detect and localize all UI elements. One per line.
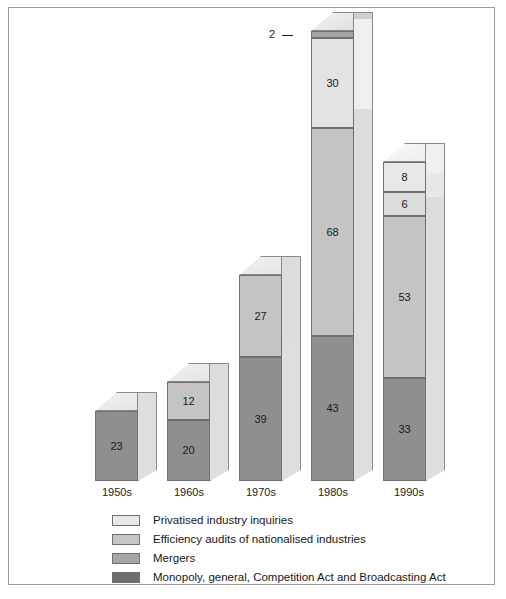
bar-front-face-1990s-efficiency: 53 [383, 216, 426, 378]
callout-leader-line [282, 35, 293, 36]
legend-swatch-mergers-icon [112, 553, 140, 564]
bar-value-label: 53 [398, 292, 410, 303]
bar-segment-1980s-monopoly: 43 [311, 336, 354, 481]
bar-side-face-1960s-monopoly [210, 401, 229, 481]
legend-label-mergers: Mergers [153, 552, 195, 564]
legend-item-efficiency: Efficiency audits of nationalised indust… [112, 530, 492, 548]
legend-swatch-monopoly-icon [112, 572, 140, 583]
bar-segment-1970s-efficiency: 27 [239, 275, 282, 357]
bar-front-face-1950s-monopoly: 23 [95, 411, 138, 481]
legend-item-mergers: Mergers [112, 549, 492, 567]
bar-top-face-1980s [311, 12, 354, 31]
bar-group-1990s: 8 6 53 33 [383, 0, 463, 490]
bar-group-1980s: 30 68 43 2 [311, 0, 391, 490]
bar-value-label: 33 [398, 424, 410, 435]
bar-front-face-1990s-monopoly: 33 [383, 378, 426, 481]
bar-segment-1950s-monopoly: 23 [95, 411, 138, 481]
bar-front-face-1990s-privatised-top: 8 [383, 162, 426, 192]
bar-segment-1990s-monopoly: 33 [383, 378, 426, 481]
bar-segment-1980s-privatised: 30 [311, 38, 354, 128]
bar-front-face-1960s-monopoly: 20 [167, 420, 210, 481]
bar-front-face-1980s-efficiency: 68 [311, 128, 354, 336]
bar-value-label: 27 [254, 311, 266, 322]
bar-value-label: 30 [326, 78, 338, 89]
bar-front-face-1970s-efficiency: 27 [239, 275, 282, 357]
bar-side-face-1980s-efficiency [354, 109, 373, 336]
bar-segment-1960s-efficiency: 12 [167, 382, 210, 420]
legend-label-monopoly: Monopoly, general, Competition Act and B… [153, 571, 446, 583]
bar-value-label: 43 [326, 403, 338, 414]
bar-value-label: 12 [182, 396, 194, 407]
axis-tick-label-1950s: 1950s [86, 486, 148, 498]
legend-swatch-privatised-icon [112, 515, 140, 526]
bar-front-face-1980s-mergers [311, 31, 354, 38]
legend-item-privatised: Privatised industry inquiries [112, 511, 492, 529]
bar-side-face-1950s [138, 392, 157, 481]
legend-label-efficiency: Efficiency audits of nationalised indust… [153, 533, 366, 545]
bar-side-face-1980s-monopoly [354, 317, 373, 481]
bar-front-face-1980s-privatised: 30 [311, 38, 354, 128]
bar-front-face-1960s-efficiency: 12 [167, 382, 210, 420]
axis-tick-label-1970s: 1970s [230, 486, 292, 498]
bar-side-face-1990s-efficiency [426, 197, 445, 378]
bar-group-1960s: 12 20 [167, 0, 247, 490]
bar-segment-1990s-privatised-top: 8 [383, 162, 426, 192]
axis-tick-label-1980s: 1980s [302, 486, 364, 498]
bar-side-face-1970s-monopoly [282, 338, 301, 481]
bar-group-1950s: 23 [95, 0, 175, 490]
bar-segment-1970s-monopoly: 39 [239, 357, 282, 481]
legend-swatch-efficiency-icon [112, 534, 140, 545]
bar-top-face-1950s [95, 392, 138, 411]
bar-front-face-1970s-monopoly: 39 [239, 357, 282, 481]
bar-segment-1960s-monopoly: 20 [167, 420, 210, 481]
bar-value-label: 8 [401, 172, 407, 183]
axis-tick-label-1960s: 1960s [158, 486, 220, 498]
bar-segment-1980s-efficiency: 68 [311, 128, 354, 336]
bar-value-label: 39 [254, 414, 266, 425]
axis-tick-label-1990s: 1990s [378, 486, 440, 498]
bar-value-label: 20 [182, 445, 194, 456]
callout-label-2: 2 [269, 28, 275, 40]
bar-segment-1990s-privatised-lower: 6 [383, 192, 426, 216]
bar-value-label: 6 [401, 199, 407, 210]
bar-top-face-1970s [239, 256, 282, 275]
bar-top-face-1960s [167, 363, 210, 382]
bar-front-face-1980s-monopoly: 43 [311, 336, 354, 481]
bar-group-1970s: 27 39 [239, 0, 319, 490]
chart-legend: Privatised industry inquiries Efficiency… [112, 511, 492, 587]
bar-segment-1980s-mergers [311, 31, 354, 38]
legend-label-privatised: Privatised industry inquiries [153, 514, 293, 526]
bar-top-face-1990s [383, 143, 426, 162]
bar-segment-1990s-efficiency: 53 [383, 216, 426, 378]
bar-side-face-1990s-monopoly [426, 359, 445, 481]
bar-value-label: 23 [110, 441, 122, 452]
legend-item-monopoly: Monopoly, general, Competition Act and B… [112, 568, 492, 586]
bar-value-label: 68 [326, 227, 338, 238]
figure-root: 23 12 20 [0, 0, 506, 599]
chart-plot-area: 23 12 20 [0, 0, 506, 599]
bar-front-face-1990s-privatised-lower: 6 [383, 192, 426, 216]
